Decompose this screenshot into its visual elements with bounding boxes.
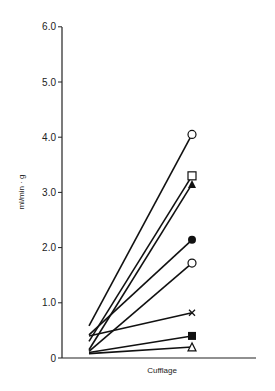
chart: 01.02.03.04.05.06.0 ml/min · g Cufflage: [0, 0, 275, 391]
y-tick-label: 6.0: [42, 21, 56, 32]
open-square-marker: [188, 172, 196, 180]
open-circle-marker: [188, 259, 196, 267]
series-open-circle-1: [89, 130, 196, 326]
series-group: [89, 130, 196, 353]
y-ticks: 01.02.03.04.05.06.0: [42, 21, 62, 363]
y-tick-label: 1.0: [42, 297, 56, 308]
filled-square-marker: [188, 332, 196, 340]
series-filled-circle: [89, 236, 196, 335]
series-line: [89, 134, 192, 326]
y-tick-label: 0: [50, 353, 56, 364]
series-line: [89, 240, 192, 335]
filled-circle-marker: [188, 236, 196, 244]
y-tick-label: 5.0: [42, 77, 56, 88]
open-circle-marker: [188, 130, 196, 138]
y-axis-label: ml/min · g: [17, 174, 26, 209]
x-axis-label: Cufflage: [147, 366, 177, 375]
y-tick-label: 4.0: [42, 132, 56, 143]
y-tick-label: 3.0: [42, 187, 56, 198]
y-tick-label: 2.0: [42, 242, 56, 253]
axes: [62, 27, 256, 358]
